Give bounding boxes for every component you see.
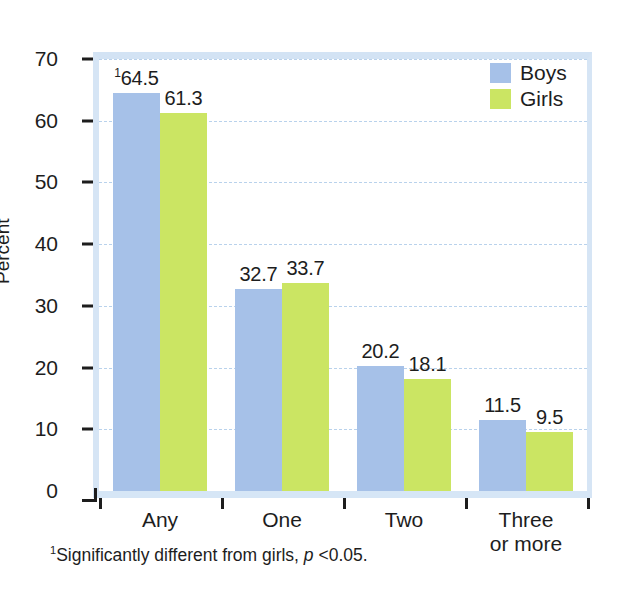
y-tick-mark-10 xyxy=(82,428,93,431)
bar-boys-two[interactable] xyxy=(357,366,404,491)
x-tick-label-line: Any xyxy=(142,508,178,532)
legend-swatch-girls-icon xyxy=(490,89,511,109)
x-tick-mark-1 xyxy=(221,498,224,509)
legend-label-girls: Girls xyxy=(520,87,563,111)
value-label-girls-one: 33.7 xyxy=(280,257,332,280)
y-tick-label-70: 70 xyxy=(18,47,58,71)
bar-boys-one[interactable] xyxy=(235,289,282,491)
value-label-superscript: 1 xyxy=(114,66,120,80)
legend: Boys Girls xyxy=(490,60,567,112)
y-tick-mark-20 xyxy=(82,366,93,369)
legend-item-girls[interactable]: Girls xyxy=(490,86,567,112)
y-tick-label-40: 40 xyxy=(18,232,58,256)
y-tick-label-20: 20 xyxy=(18,356,58,380)
y-tick-mark-40 xyxy=(82,243,93,246)
x-tick-label-line: One xyxy=(262,508,302,532)
value-label-girls-two: 18.1 xyxy=(402,353,454,376)
footnote: 1Significantly different from girls, p <… xyxy=(50,545,368,566)
bar-girls-one[interactable] xyxy=(282,283,329,491)
y-tick-mark-60 xyxy=(82,119,93,122)
x-tick-mark-4 xyxy=(587,498,590,509)
y-tick-label-30: 30 xyxy=(18,294,58,318)
x-tick-label-line: Two xyxy=(385,508,424,532)
bar-boys-three-or-more[interactable] xyxy=(479,420,526,491)
value-label-boys-two: 20.2 xyxy=(355,340,407,363)
y-tick-label-50: 50 xyxy=(18,170,58,194)
bar-girls-any[interactable] xyxy=(160,113,207,491)
footnote-prefix: Significantly different from girls, xyxy=(56,545,304,565)
legend-label-boys: Boys xyxy=(520,61,567,85)
bar-chart-figure: 164.532.720.211.561.333.718.19.5 Percent… xyxy=(0,0,627,591)
x-tick-label-any: Any xyxy=(142,508,178,532)
y-tick-label-0: 0 xyxy=(18,479,58,503)
legend-swatch-boys-icon xyxy=(490,63,511,83)
plot-inner: 164.532.720.211.561.333.718.19.5 xyxy=(99,59,587,491)
y-axis-title: Percent xyxy=(0,219,14,284)
x-tick-mark-2 xyxy=(343,498,346,509)
value-label-girls-any: 61.3 xyxy=(158,87,210,110)
y-axis-corner-bottom xyxy=(82,488,97,502)
x-tick-label-line: or more xyxy=(490,532,562,556)
y-tick-label-60: 60 xyxy=(18,109,58,133)
y-tick-mark-70 xyxy=(82,58,93,61)
y-tick-mark-30 xyxy=(82,304,93,307)
x-tick-label-three-or-more: Threeor more xyxy=(490,508,562,555)
x-tick-label-two: Two xyxy=(385,508,424,532)
y-tick-mark-50 xyxy=(82,181,93,184)
bar-girls-two[interactable] xyxy=(404,379,451,491)
value-label-boys-three-or-more: 11.5 xyxy=(477,394,529,417)
y-tick-label-10: 10 xyxy=(18,417,58,441)
value-label-girls-three-or-more: 9.5 xyxy=(524,406,576,429)
footnote-italic: p xyxy=(304,545,314,565)
legend-item-boys[interactable]: Boys xyxy=(490,60,567,86)
x-tick-mark-0 xyxy=(99,498,102,509)
bar-girls-three-or-more[interactable] xyxy=(526,432,573,491)
x-tick-label-one: One xyxy=(262,508,302,532)
x-tick-label-line: Three xyxy=(490,508,562,532)
value-label-boys-one: 32.7 xyxy=(233,263,285,286)
bar-boys-any[interactable] xyxy=(113,93,160,491)
x-tick-mark-3 xyxy=(465,498,468,509)
footnote-suffix: <0.05. xyxy=(314,545,368,565)
